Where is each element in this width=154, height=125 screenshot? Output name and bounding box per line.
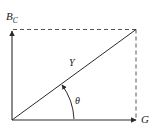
hypotenuse-y-line xyxy=(12,30,136,121)
admittance-diagram: BC G Y θ xyxy=(0,0,154,125)
vertical-axis-label: BC xyxy=(6,10,19,25)
hypotenuse-label: Y xyxy=(69,57,76,68)
angle-arc xyxy=(62,85,74,119)
angle-label: θ xyxy=(75,95,80,106)
horizontal-axis-label: G xyxy=(141,113,149,125)
